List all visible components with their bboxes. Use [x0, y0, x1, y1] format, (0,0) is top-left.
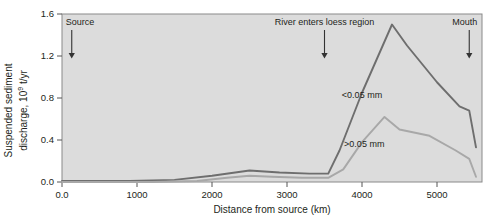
- x-tick-label: 1000: [126, 189, 147, 200]
- annotation-label-1: River enters loess region: [275, 17, 375, 27]
- plot-background: [62, 14, 482, 182]
- x-axis-title: Distance from source (km): [213, 204, 330, 215]
- x-tick-label: 3000: [276, 189, 297, 200]
- series-label-0: <0.05 mm: [342, 90, 382, 100]
- figure-suspended-sediment-discharge: Suspended sediment discharge, 109 t/yr 0…: [0, 0, 490, 221]
- annotation-label-2: Mouth: [452, 17, 477, 27]
- annotation-label-0: Source: [66, 17, 95, 27]
- y-tick-label: 0.8: [41, 92, 54, 103]
- chart-canvas: 0.00.40.81.21.60.010002000300040005000Di…: [0, 0, 490, 221]
- x-tick-label: 4000: [351, 189, 372, 200]
- y-tick-label: 1.2: [41, 50, 54, 61]
- x-tick-label: 0.0: [55, 189, 68, 200]
- y-tick-label: 0.4: [41, 134, 54, 145]
- y-tick-label: 0.0: [41, 176, 54, 187]
- series-label-1: >0.05 mm: [344, 139, 384, 149]
- x-tick-label: 2000: [201, 189, 222, 200]
- y-tick-label: 1.6: [41, 8, 54, 19]
- x-tick-label: 5000: [426, 189, 447, 200]
